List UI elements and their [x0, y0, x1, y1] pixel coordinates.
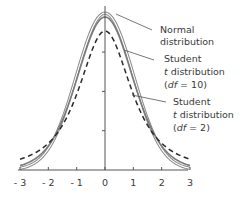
annotation-t10: Student t distribution (df = 10) [164, 53, 225, 90]
x-tick-label: 2 [159, 177, 165, 188]
svg-text:Normal: Normal [160, 24, 194, 35]
leader-normal [116, 14, 152, 30]
x-axis: - 3- 2- 10123 [14, 167, 193, 188]
x-tick-label: - 1 [70, 177, 83, 188]
x-tick-label: 3 [187, 177, 193, 188]
x-tick-label: 1 [130, 177, 136, 188]
x-tick-label: - 3 [14, 177, 27, 188]
svg-text:t distribution: t distribution [164, 66, 225, 77]
svg-text:(df = 10): (df = 10) [164, 79, 207, 90]
svg-text:(df = 2): (df = 2) [173, 122, 210, 133]
leader-lines [116, 14, 166, 102]
svg-text:Student: Student [173, 96, 211, 107]
svg-text:t distribution: t distribution [173, 109, 234, 120]
x-tick-label: - 2 [42, 177, 55, 188]
annotation-t2: Student t distribution (df = 2) [173, 96, 234, 133]
svg-text:distribution: distribution [160, 36, 214, 47]
annotation-normal: Normal distribution [160, 24, 214, 47]
y-axis [102, 6, 105, 170]
leader-t2 [132, 95, 166, 102]
t-distribution-chart: - 3- 2- 10123 Normal distribution Studen… [0, 0, 243, 199]
x-tick-label: 0 [102, 177, 108, 188]
svg-text:Student: Student [164, 53, 202, 64]
